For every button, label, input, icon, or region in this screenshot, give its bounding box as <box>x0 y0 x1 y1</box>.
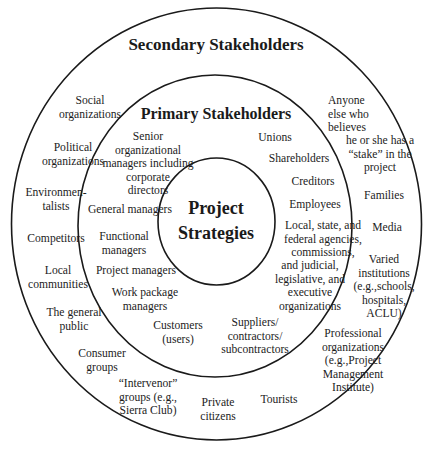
primary-senior-managers: Senior organizational managers including… <box>88 130 208 198</box>
primary-functional-managers: Functional managers <box>84 230 164 257</box>
primary-general-managers: General managers <box>78 203 182 217</box>
primary-government-agencies: Local, state, and federal agencies, comm… <box>278 219 368 260</box>
secondary-intervenor-groups: “Intervenor” groups (e.g., Sierra Club) <box>108 377 188 418</box>
primary-suppliers: Suppliers/ contractors/ subcontractors <box>210 316 300 357</box>
secondary-stake-holder-belief: he or she has a “stake” in the project <box>333 134 427 175</box>
secondary-anyone-else: Anyone else who believes <box>328 94 398 135</box>
primary-shareholders: Shareholders <box>263 152 335 166</box>
primary-judicial-legislative-executive: and judicial, legislative, and executive… <box>262 259 358 313</box>
primary-work-package-managers: Work package managers <box>100 286 190 313</box>
primary-employees: Employees <box>277 198 353 212</box>
secondary-professional-organizations: Professional organizations (e.g.,Project… <box>308 327 398 395</box>
secondary-private-citizens: Private citizens <box>183 396 253 423</box>
primary-unions: Unions <box>245 131 305 145</box>
secondary-tourists: Tourists <box>244 393 314 407</box>
primary-customers: Customers (users) <box>143 319 213 346</box>
primary-stakeholders-title: Primary Stakeholders <box>131 104 301 124</box>
secondary-stakeholders-title: Secondary Stakeholders <box>124 35 308 55</box>
primary-project-managers: Project managers <box>86 264 186 278</box>
secondary-social-organizations: Social organizations <box>48 94 132 121</box>
primary-creditors: Creditors <box>281 175 345 189</box>
secondary-consumer-groups: Consumer groups <box>62 347 142 374</box>
secondary-families: Families <box>349 189 419 203</box>
